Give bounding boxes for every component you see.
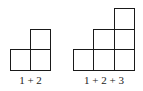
unit-square: [10, 49, 31, 71]
unit-square: [93, 49, 115, 71]
unit-square: [114, 29, 135, 50]
figure-label: 1 + 2 + 3: [73, 74, 135, 86]
unit-square: [114, 8, 135, 30]
unit-square: [93, 29, 115, 50]
unit-square: [30, 29, 51, 50]
figure-label: 1 + 2: [10, 74, 51, 86]
unit-square: [73, 49, 94, 71]
unit-square: [30, 49, 51, 71]
unit-square: [114, 49, 135, 71]
